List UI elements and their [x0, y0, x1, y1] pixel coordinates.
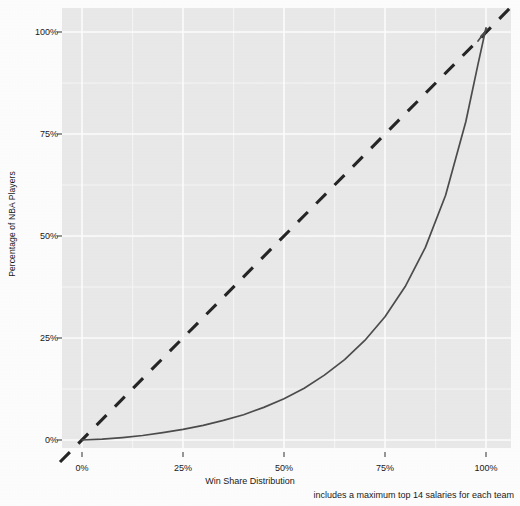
- chart-caption: includes a maximum top 14 salaries for e…: [0, 490, 514, 500]
- x-tick-mark-50: [284, 452, 285, 457]
- y-axis-tick-labels: 0% 25% 50% 75% 100%: [18, 0, 58, 506]
- y-tick-mark-0: [57, 440, 62, 441]
- y-tick-mark-75: [57, 134, 62, 135]
- y-tick-label-100: 100%: [35, 27, 58, 37]
- y-tick-mark-50: [57, 236, 62, 237]
- x-tick-mark-100: [486, 452, 487, 457]
- x-tick-mark-25: [183, 452, 184, 457]
- x-tick-label-50: 50%: [275, 463, 293, 473]
- x-tick-mark-0: [82, 452, 83, 457]
- x-tick-label-100: 100%: [474, 463, 497, 473]
- x-tick-label-75: 75%: [376, 463, 394, 473]
- x-tick-label-0: 0%: [75, 463, 88, 473]
- y-tick-label-50: 50%: [40, 231, 58, 241]
- x-tick-mark-75: [385, 452, 386, 457]
- plot-panel: [0, 0, 520, 506]
- x-tick-label-25: 25%: [174, 463, 192, 473]
- y-tick-label-25: 25%: [40, 333, 58, 343]
- lorenz-curve-chart: Percentage of NBA Players 0% 25% 50% 75%…: [0, 0, 520, 506]
- y-tick-mark-25: [57, 338, 62, 339]
- y-tick-mark-100: [57, 32, 62, 33]
- panel-background: [62, 8, 511, 448]
- y-tick-label-75: 75%: [40, 129, 58, 139]
- x-axis-title: Win Share Distribution: [0, 476, 500, 486]
